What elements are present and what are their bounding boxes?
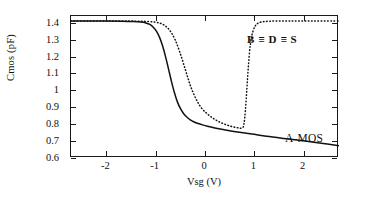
y-axis-tick-labels: 0.60.70.80.911.11.21.31.4 — [0, 15, 70, 157]
y-tick-mark — [332, 57, 337, 58]
x-tick-label: -2 — [101, 160, 110, 171]
y-tick-mark — [332, 23, 337, 24]
x-tick-mark — [106, 151, 107, 156]
y-tick-mark — [71, 40, 76, 41]
y-tick-mark — [71, 90, 76, 91]
x-tick-label: -1 — [150, 160, 159, 171]
y-tick-mark — [332, 40, 337, 41]
x-tick-mark — [106, 16, 107, 21]
y-tick-mark — [332, 73, 337, 74]
plot-area: B ≡ D ≡ S A-MOS — [70, 15, 338, 157]
series-curve-dotted — [71, 21, 339, 128]
x-tick-label: 2 — [300, 160, 305, 171]
y-tick-mark — [332, 124, 337, 125]
y-tick-mark — [71, 124, 76, 125]
y-tick-mark — [332, 90, 337, 91]
y-tick-label: 0.7 — [46, 135, 59, 146]
x-tick-mark — [205, 16, 206, 21]
y-tick-label: 0.8 — [46, 118, 59, 129]
y-tick-mark — [71, 73, 76, 74]
x-tick-label: 0 — [201, 160, 206, 171]
y-tick-mark — [332, 107, 337, 108]
y-tick-label: 0.6 — [46, 152, 59, 163]
x-tick-mark — [254, 16, 255, 21]
chart-figure: Cmos (pF) 0.60.70.80.911.11.21.31.4 B ≡ … — [0, 0, 365, 200]
annotation-a-mos: A-MOS — [285, 132, 323, 144]
y-tick-label: 1.1 — [46, 67, 59, 78]
annotation-b-d-s: B ≡ D ≡ S — [247, 33, 297, 45]
y-tick-mark — [71, 107, 76, 108]
x-tick-mark — [156, 16, 157, 21]
x-tick-mark — [156, 151, 157, 156]
x-tick-mark — [304, 151, 305, 156]
y-tick-label: 1.4 — [46, 16, 59, 27]
figure-canvas: Cmos (pF) 0.60.70.80.911.11.21.31.4 B ≡ … — [0, 0, 365, 200]
y-tick-label: 1.3 — [46, 33, 59, 44]
y-tick-label: 0.9 — [46, 101, 59, 112]
x-axis-title: Vsg (V) — [70, 176, 338, 187]
y-tick-mark — [71, 57, 76, 58]
series-curve-solid — [71, 21, 339, 146]
x-axis-tick-labels: -2-1012 — [70, 157, 338, 177]
y-tick-mark — [71, 141, 76, 142]
x-tick-label: 1 — [251, 160, 256, 171]
x-tick-mark — [304, 16, 305, 21]
y-tick-mark — [332, 141, 337, 142]
x-tick-mark — [205, 151, 206, 156]
y-tick-label: 1 — [54, 84, 59, 95]
y-tick-label: 1.2 — [46, 50, 59, 61]
y-tick-mark — [71, 23, 76, 24]
x-tick-mark — [254, 151, 255, 156]
